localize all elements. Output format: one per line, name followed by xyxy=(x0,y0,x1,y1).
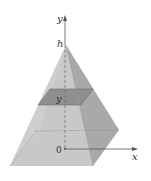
origin-label: 0 xyxy=(56,145,62,155)
height-label-h: h xyxy=(57,38,63,49)
y-axis-arrow-icon xyxy=(63,15,67,21)
y-axis-label: y xyxy=(56,13,63,24)
pyramid-diagram: y h y 0 x xyxy=(0,0,151,181)
origin-point xyxy=(64,148,66,150)
slice-height-label: y xyxy=(55,93,62,104)
x-axis-label: x xyxy=(132,151,138,162)
